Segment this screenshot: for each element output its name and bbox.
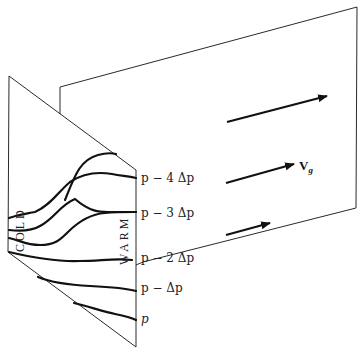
warm-label: WARM: [117, 216, 131, 265]
thermal-wind-diagram: Vg COLD WARM p − 4 Δp p − 3 Δp p − 2 Δp …: [0, 0, 360, 354]
front-plane: COLD WARM p − 4 Δp p − 3 Δp p − 2 Δp p −…: [8, 76, 194, 347]
wind-label: Vg: [299, 158, 313, 175]
wind-arrow-middle: [226, 164, 294, 183]
wind-arrow-lower: [226, 223, 270, 235]
label-p-minus-2dp: p − 2 Δp: [141, 251, 194, 265]
label-p-minus-3dp: p − 3 Δp: [141, 206, 194, 220]
back-plane-top-edge: [60, 7, 357, 87]
label-p-minus-dp: p − Δp: [141, 281, 183, 295]
back-plane-right-edge: [356, 7, 357, 208]
wind-arrow-upper: [227, 96, 327, 122]
label-p-minus-4dp: p − 4 Δp: [141, 171, 194, 185]
cold-label: COLD: [13, 207, 27, 252]
label-p: p: [141, 312, 149, 326]
